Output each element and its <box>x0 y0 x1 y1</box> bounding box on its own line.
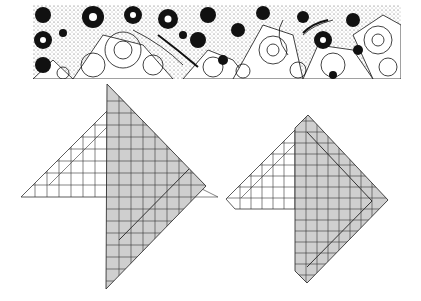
grid-diagram-left <box>0 80 230 301</box>
folding-diagram-right <box>215 80 421 301</box>
floral-pattern <box>33 5 401 79</box>
grid-diagram-right <box>215 80 421 301</box>
folding-diagram-left <box>0 80 230 301</box>
floral-banner <box>33 5 401 79</box>
